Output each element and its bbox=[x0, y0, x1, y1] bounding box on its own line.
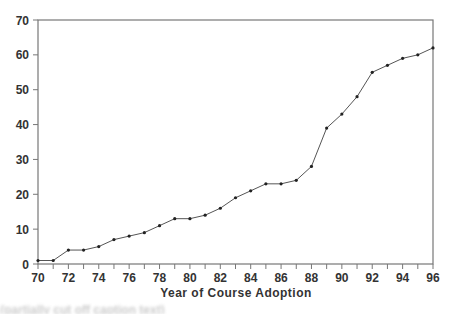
x-tick-label: 80 bbox=[183, 271, 197, 285]
data-point-marker bbox=[264, 182, 267, 185]
data-point-marker bbox=[416, 53, 419, 56]
data-point-marker bbox=[82, 248, 85, 251]
data-point-marker bbox=[143, 231, 146, 234]
x-tick-label: 96 bbox=[426, 271, 440, 285]
y-tick-label: 10 bbox=[16, 223, 30, 237]
data-point-marker bbox=[355, 95, 358, 98]
data-point-marker bbox=[97, 245, 100, 248]
series-line bbox=[38, 48, 433, 261]
data-point-marker bbox=[188, 217, 191, 220]
data-point-marker bbox=[279, 182, 282, 185]
y-tick-label: 0 bbox=[22, 258, 29, 272]
data-point-marker bbox=[371, 71, 374, 74]
data-point-marker bbox=[401, 57, 404, 60]
y-axis: 010203040506070 bbox=[16, 14, 38, 272]
line-chart: 010203040506070 707274767880828486889092… bbox=[0, 0, 456, 314]
x-tick-label: 70 bbox=[31, 271, 45, 285]
data-point-marker bbox=[386, 64, 389, 67]
data-point-marker bbox=[67, 248, 70, 251]
data-series bbox=[36, 46, 434, 262]
data-point-marker bbox=[173, 217, 176, 220]
plot-border bbox=[38, 20, 433, 264]
x-tick-label: 78 bbox=[153, 271, 167, 285]
y-tick-label: 70 bbox=[16, 14, 30, 28]
plot-frame bbox=[38, 20, 433, 264]
data-point-marker bbox=[295, 179, 298, 182]
figure-caption: (partially cut off caption text) bbox=[0, 303, 456, 314]
y-tick-label: 50 bbox=[16, 83, 30, 97]
data-point-marker bbox=[128, 235, 131, 238]
data-point-marker bbox=[310, 165, 313, 168]
x-tick-label: 74 bbox=[92, 271, 106, 285]
y-tick-label: 30 bbox=[16, 153, 30, 167]
data-point-marker bbox=[325, 126, 328, 129]
y-tick-label: 60 bbox=[16, 48, 30, 62]
data-point-marker bbox=[204, 214, 207, 217]
data-point-marker bbox=[431, 46, 434, 49]
x-tick-label: 94 bbox=[396, 271, 410, 285]
x-tick-label: 82 bbox=[214, 271, 228, 285]
x-tick-label: 72 bbox=[62, 271, 76, 285]
data-point-marker bbox=[219, 207, 222, 210]
x-tick-label: 76 bbox=[122, 271, 136, 285]
data-point-marker bbox=[249, 189, 252, 192]
x-tick-label: 86 bbox=[274, 271, 288, 285]
x-tick-label: 88 bbox=[305, 271, 319, 285]
x-tick-label: 90 bbox=[335, 271, 349, 285]
x-tick-label: 92 bbox=[366, 271, 380, 285]
y-tick-label: 40 bbox=[16, 118, 30, 132]
data-point-marker bbox=[340, 113, 343, 116]
x-axis-title: Year of Course Adoption bbox=[160, 286, 312, 300]
data-point-marker bbox=[112, 238, 115, 241]
data-point-marker bbox=[52, 259, 55, 262]
y-tick-label: 20 bbox=[16, 188, 30, 202]
data-point-marker bbox=[36, 259, 39, 262]
x-tick-label: 84 bbox=[244, 271, 258, 285]
data-point-marker bbox=[234, 196, 237, 199]
data-point-marker bbox=[158, 224, 161, 227]
x-axis: 7072747678808284868890929496 bbox=[31, 264, 440, 285]
